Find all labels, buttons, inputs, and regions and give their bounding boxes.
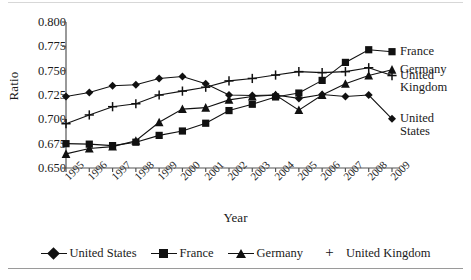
legend-item[interactable]: United States <box>41 246 137 261</box>
plot-area <box>0 0 471 280</box>
legend-marker-square <box>151 248 177 259</box>
legend-marker-plus <box>317 248 343 259</box>
line-chart: Ratio Year 0.8000.7750.7500.7250.7000.67… <box>0 0 471 280</box>
legend-label: United States <box>70 246 137 261</box>
legend-item[interactable]: France <box>151 246 214 261</box>
legend-item[interactable]: Germany <box>228 246 304 261</box>
legend-item[interactable]: United Kingdom <box>317 246 430 261</box>
legend-label: France <box>180 246 214 261</box>
legend-marker-diamond <box>41 248 67 259</box>
chart-legend: United StatesFranceGermanyUnited Kingdom <box>0 246 471 261</box>
legend-label: Germany <box>257 246 304 261</box>
legend-marker-triangle <box>228 248 254 259</box>
legend-label: United Kingdom <box>346 246 430 261</box>
